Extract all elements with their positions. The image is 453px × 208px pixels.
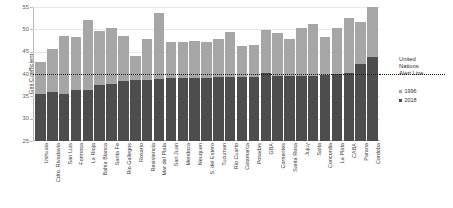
x-label-cell: Catamarca [237, 143, 247, 203]
x-label-cell: Rosario [130, 143, 140, 203]
x-axis-labels: UshuaiaCdro. RivadaviaSan LuisFormosaLa … [33, 143, 380, 203]
x-label-cell: Cordoba [367, 143, 377, 203]
x-axis-tick-label: Cordoba [375, 143, 381, 164]
bar-2018 [213, 77, 223, 141]
y-tick-label-45: 45 [5, 48, 29, 54]
plot-area: Gini Coefficient [33, 7, 380, 141]
bar-2018 [166, 78, 176, 141]
x-label-cell: Parana [355, 143, 365, 203]
legend-swatch-icon [399, 90, 402, 93]
bar-2018 [332, 74, 342, 141]
chart-legend: United Nations Alert Line 19962018 [399, 56, 453, 105]
bar-2018 [130, 80, 140, 141]
legend-item-2018[interactable]: 2018 [399, 96, 453, 105]
bar-2018 [142, 80, 152, 141]
bar-2018 [201, 78, 211, 141]
x-label-cell: La Plata [332, 143, 342, 203]
bar-2018 [272, 76, 282, 141]
bar-2018 [189, 78, 199, 141]
x-label-cell: La Rioja [83, 143, 93, 203]
bar-2018 [296, 76, 306, 141]
bar-2018 [284, 76, 294, 141]
bar-2018 [83, 90, 93, 141]
bar-2018 [355, 64, 365, 141]
x-label-cell: Santa Fe [106, 143, 116, 203]
x-label-cell: Bahia Blanca [94, 143, 104, 203]
y-tick-mark-25 [30, 141, 33, 142]
x-label-cell: Mendoza [178, 143, 188, 203]
x-label-cell: Ushuaia [35, 143, 45, 203]
x-label-cell: Resistencia [142, 143, 152, 203]
x-label-cell: S. del Estero [201, 143, 211, 203]
x-label-cell: Tucuman [213, 143, 223, 203]
x-label-cell: Salta [308, 143, 318, 203]
legend-swatch-icon [399, 99, 402, 102]
bar-2018 [367, 57, 377, 141]
bar-2018 [344, 73, 354, 141]
bar-2018 [249, 77, 259, 141]
bar-2018 [35, 94, 45, 141]
y-tick-label-35: 35 [5, 93, 29, 99]
bar-2018 [71, 90, 81, 141]
bar-2018 [154, 79, 164, 141]
x-label-cell: San Luis [59, 143, 69, 203]
x-label-cell: Corrientes [272, 143, 282, 203]
x-label-cell: Santa Rosa [284, 143, 294, 203]
legend-title-line-2: Nations [399, 63, 453, 70]
bar-2018 [308, 76, 318, 141]
bar-2018 [118, 81, 128, 141]
x-label-cell: Formosa [71, 143, 81, 203]
legend-item-1996[interactable]: 1996 [399, 87, 453, 96]
legend-title-line-1: United [399, 56, 453, 63]
x-label-cell: Concordia [320, 143, 330, 203]
y-tick-label-25: 25 [5, 138, 29, 144]
bar-2018 [47, 92, 57, 141]
x-label-cell: Rio Gallegos [118, 143, 128, 203]
alert-line-extension [380, 74, 445, 75]
bar-2018 [225, 77, 235, 141]
bar-2018 [320, 75, 330, 141]
bar-2018 [106, 84, 116, 141]
x-label-cell: Cdro. Rivadavia [47, 143, 57, 203]
y-tick-label-50: 50 [5, 26, 29, 32]
gini-coefficient-bar-chart: Gini Coefficient 25303540455055 UshuaiaC… [0, 0, 453, 208]
x-label-cell: Jujuy [296, 143, 306, 203]
x-label-cell: CABA [344, 143, 354, 203]
x-label-cell: San Juan [166, 143, 176, 203]
legend-items: 19962018 [399, 87, 453, 105]
y-tick-label-30: 30 [5, 115, 29, 121]
united-nations-alert-line [33, 74, 380, 75]
x-label-cell: Posadas [249, 143, 259, 203]
x-label-cell: Neuquen [189, 143, 199, 203]
bar-2018 [237, 77, 247, 141]
bar-2018 [178, 78, 188, 141]
bar-2018 [59, 94, 69, 141]
legend-item-label: 1996 [405, 88, 417, 94]
x-label-cell: Rio Cuarto [225, 143, 235, 203]
legend-item-label: 2018 [405, 97, 417, 103]
x-label-cell: GBA [261, 143, 271, 203]
y-tick-label-40: 40 [5, 71, 29, 77]
bar-2018 [261, 73, 271, 141]
bar-2018 [94, 85, 104, 141]
x-label-cell: Mar del Plata [154, 143, 164, 203]
y-tick-label-55: 55 [5, 4, 29, 10]
